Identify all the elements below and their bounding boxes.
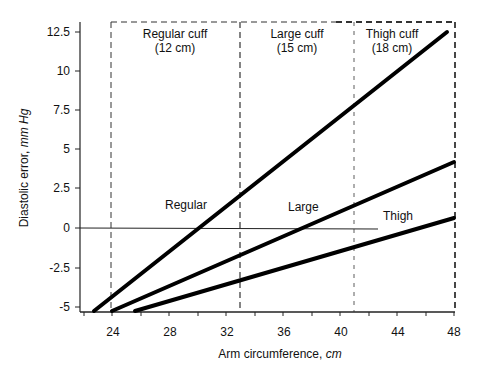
y-ticks xyxy=(75,32,80,307)
x-tick-label: 28 xyxy=(163,325,177,339)
region-sublabel-large: (15 cm) xyxy=(277,41,318,55)
region-label-large: Large cuff xyxy=(270,27,324,41)
y-tick-label: 10 xyxy=(57,64,71,78)
region-label-thigh: Thigh cuff xyxy=(366,27,419,41)
series-label-large: Large xyxy=(288,200,319,214)
y-tick-label: 12.5 xyxy=(47,25,71,39)
x-tick-label: 24 xyxy=(106,325,120,339)
x-tick-label: 40 xyxy=(334,325,348,339)
region-label-regular: Regular cuff xyxy=(143,27,208,41)
series-large xyxy=(112,162,454,311)
y-tick-label: 7.5 xyxy=(53,103,70,117)
x-tick-label: 48 xyxy=(447,325,461,339)
y-tick-label: 0 xyxy=(63,221,70,235)
series-regular xyxy=(94,32,447,311)
cuff-labels: Regular cuff (12 cm) Large cuff (15 cm) … xyxy=(143,27,419,55)
chart: 12.5 10 7.5 5 2.5 0 -2.5 -5 24 28 32 36 … xyxy=(0,0,478,376)
data-lines xyxy=(94,32,454,311)
x-tick-label: 32 xyxy=(220,325,234,339)
series-label-regular: Regular xyxy=(165,198,207,212)
y-tick-label: -5 xyxy=(59,300,70,314)
y-tick-label: 2.5 xyxy=(53,181,70,195)
region-sublabel-thigh: (18 cm) xyxy=(372,41,413,55)
y-tick-labels: 12.5 10 7.5 5 2.5 0 -2.5 -5 xyxy=(47,25,71,314)
x-tick-label: 44 xyxy=(391,325,405,339)
y-axis-title: Diastolic error, mm Hg xyxy=(17,108,31,227)
x-axis-title: Arm circumference, cm xyxy=(218,347,341,361)
y-tick-label: 5 xyxy=(63,142,70,156)
region-sublabel-regular: (12 cm) xyxy=(155,41,196,55)
series-label-thigh: Thigh xyxy=(383,209,413,223)
zero-reference-line xyxy=(80,228,378,229)
x-tick-labels: 24 28 32 36 40 44 48 xyxy=(106,325,461,339)
x-tick-label: 36 xyxy=(277,325,291,339)
y-tick-label: -2.5 xyxy=(49,261,70,275)
